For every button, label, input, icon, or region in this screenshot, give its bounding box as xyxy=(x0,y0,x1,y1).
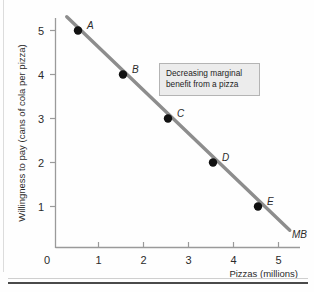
data-point-c xyxy=(164,114,172,122)
bottom-rule-light xyxy=(8,278,308,279)
annotation-line-2: benefit from a pizza xyxy=(166,79,254,90)
data-point-label-a: A xyxy=(86,20,94,31)
x-tick-label-2: 2 xyxy=(140,254,146,266)
y-tick-label-3: 3 xyxy=(38,113,44,125)
data-point-d xyxy=(209,158,217,166)
data-point-label-b: B xyxy=(132,64,139,75)
data-point-label-c: C xyxy=(177,108,185,119)
y-tick-label-1: 1 xyxy=(38,201,44,213)
annotation-box: Decreasing marginal benefit from a pizza xyxy=(159,63,260,96)
x-tick-label-3: 3 xyxy=(185,254,191,266)
data-point-a xyxy=(74,26,82,34)
data-point-e xyxy=(254,202,262,210)
x-tick-label-5: 5 xyxy=(275,254,281,266)
data-point-label-e: E xyxy=(267,196,274,207)
marginal-benefit-chart: 5 4 3 2 1 0 1 2 3 4 5 Willingness to pay… xyxy=(0,0,314,292)
data-point-b xyxy=(119,70,127,78)
y-tick-label-5: 5 xyxy=(38,25,44,37)
annotation-line-1: Decreasing marginal xyxy=(166,68,254,79)
bottom-rule-dark xyxy=(8,282,308,284)
x-tick-label-1: 1 xyxy=(95,254,101,266)
figure-container: 5 4 3 2 1 0 1 2 3 4 5 Willingness to pay… xyxy=(0,0,314,292)
data-point-label-d: D xyxy=(222,152,229,163)
y-axis-title: Willingness to pay (cans of cola per piz… xyxy=(16,44,27,221)
curve-label-mb: MB xyxy=(292,229,307,240)
x-tick-label-0: 0 xyxy=(44,254,50,266)
x-tick-label-4: 4 xyxy=(230,254,236,266)
marginal-benefit-curve xyxy=(67,17,290,230)
y-tick-label-4: 4 xyxy=(38,69,44,81)
y-tick-label-2: 2 xyxy=(38,157,44,169)
